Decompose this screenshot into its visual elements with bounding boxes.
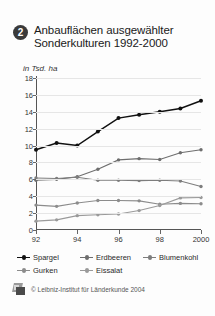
data-point [55,218,58,221]
x-axis-tick [77,230,78,234]
y-axis-tick [33,179,36,180]
data-point [117,158,120,161]
data-point [117,199,120,202]
x-axis-tick [160,230,161,234]
gridline [36,129,201,130]
legend-item-erdbeeren[interactable]: Erdbeeren [80,253,143,262]
y-axis-tick [33,112,36,113]
legend-label: Gurken [33,266,58,275]
gridline [36,162,201,163]
gridline [36,196,201,197]
gridline [36,146,201,147]
legend-label: Spargel [33,253,59,262]
series-line-erdbeeren [36,150,201,180]
data-point [178,106,182,110]
legend-marker-icon [80,254,93,261]
y-axis-tick [33,213,36,214]
data-point [199,202,202,205]
series-lines [36,78,201,230]
legend-item-eissalat[interactable]: Eissalat [80,266,143,275]
y-axis-tick-label: 10 [25,141,33,150]
page-title: Anbauflächen ausgewählter Sonderkulturen… [34,24,199,49]
data-point [34,203,37,206]
x-axis-tick-label: 2000 [193,235,210,244]
data-point [76,214,79,217]
data-point [137,113,141,117]
series-line-spargel [36,101,201,150]
legend-marker-icon [17,254,30,261]
data-point [55,141,59,145]
legend-marker-icon [17,267,30,274]
gridline [36,112,201,113]
plot-area: 024681012141618929496982000 [36,78,201,230]
data-point [199,185,202,188]
x-axis-tick [36,230,37,234]
data-point [96,168,99,171]
data-point [199,99,203,103]
data-point [76,201,79,204]
legend-item-blumenkohl[interactable]: Blumenkohl [143,253,206,262]
figure-header: 2 Anbauflächen ausgewählter Sonderkultur… [13,24,199,49]
x-axis-tick-label: 98 [156,235,164,244]
y-axis-tick [33,129,36,130]
legend-label: Eissalat [96,266,122,275]
data-point [117,116,121,120]
x-axis-tick-label: 94 [73,235,81,244]
figure-panel: 2 Anbauflächen ausgewählter Sonderkultur… [0,0,215,316]
line-chart: 024681012141618929496982000 [18,74,206,239]
data-point [34,219,37,222]
gridline [36,95,201,96]
legend-label: Erdbeeren [96,253,131,262]
y-axis-unit-label: in Tsd. ha [23,64,57,73]
x-axis-tick-label: 92 [32,235,40,244]
y-axis-tick-label: 14 [25,107,33,116]
chart-legend: SpargelErdbeerenBlumenkohlGurkenEissalat [17,253,207,275]
data-point [96,199,99,202]
x-axis-tick-label: 96 [114,235,122,244]
data-point [137,199,140,202]
legend-label: Blumenkohl [159,253,198,262]
y-axis-tick-label: 18 [25,74,33,83]
data-point [179,151,182,154]
data-point [137,209,140,212]
x-axis-tick [119,230,120,234]
legend-marker-icon [80,267,93,274]
data-point [137,157,140,160]
legend-item-spargel[interactable]: Spargel [17,253,80,262]
figure-number-badge: 2 [13,25,28,40]
data-point [34,148,38,152]
figure-footer: © Leibniz-Institut für Länderkunde 2004 [13,283,145,296]
y-axis-tick-label: 12 [25,124,33,133]
data-point [55,205,58,208]
y-axis-tick [33,95,36,96]
data-point [158,204,161,207]
y-axis-tick [33,78,36,79]
data-point [158,158,161,161]
copyright-text: © Leibniz-Institut für Länderkunde 2004 [31,286,145,293]
legend-item-gurken[interactable]: Gurken [17,266,80,275]
y-axis-tick-label: 16 [25,90,33,99]
x-axis-tick [201,230,202,234]
y-axis-tick [33,162,36,163]
y-axis-tick [33,196,36,197]
gridline [36,213,201,214]
data-point [179,202,182,205]
data-point [199,148,202,151]
legend-marker-icon [143,254,156,261]
data-point [96,130,100,134]
gridline [36,179,201,180]
gridline [36,78,201,79]
leibniz-institut-logo-icon [13,283,26,296]
y-axis-tick [33,146,36,147]
